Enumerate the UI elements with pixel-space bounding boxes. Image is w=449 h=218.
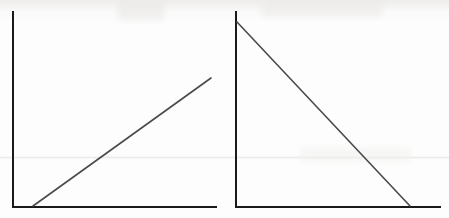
figure-container: [0, 0, 449, 218]
right-decreasing-line: [237, 22, 410, 206]
charts-svg: [0, 0, 449, 218]
left-increasing-line: [33, 78, 211, 206]
chart-panel-left: [13, 12, 216, 207]
chart-panel-right: [236, 12, 440, 207]
